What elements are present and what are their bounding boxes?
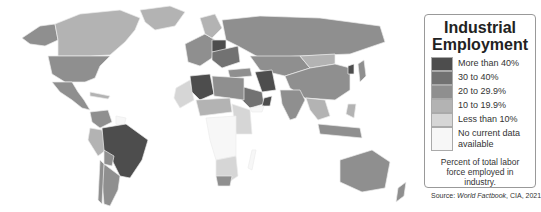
region-greenland — [140, 6, 185, 30]
region-europe-west — [185, 34, 215, 66]
region-alaska — [22, 24, 58, 46]
region-korea — [348, 64, 354, 74]
legend-swatch — [431, 71, 453, 85]
region-philippines — [346, 104, 356, 118]
legend-item: 20 to 29.9% — [431, 85, 529, 99]
legend-label: 30 to 40% — [458, 71, 499, 83]
source-suffix: , CIA, 2021 — [506, 192, 541, 199]
region-mexico — [52, 82, 90, 110]
region-russia — [222, 16, 385, 58]
legend-label: 10 to 19.9% — [458, 99, 506, 111]
legend-label: More than 40% — [458, 57, 519, 69]
region-colombia — [90, 110, 112, 128]
region-sahel — [196, 98, 232, 116]
legend-swatch — [431, 57, 453, 71]
region-japan — [358, 60, 366, 82]
legend-item: No current data available — [431, 127, 529, 151]
legend-item: More than 40% — [431, 57, 529, 71]
source-prefix: Source: — [431, 192, 457, 199]
legend-title: Industrial Employment — [431, 19, 529, 53]
region-central-africa — [206, 116, 236, 160]
legend-item: Less than 10% — [431, 113, 529, 127]
world-map — [0, 0, 420, 212]
region-libya-egypt — [212, 76, 244, 100]
legend-swatch — [431, 99, 453, 113]
legend-title-line2: Employment — [431, 36, 529, 53]
legend-swatch — [431, 85, 453, 99]
region-australia — [340, 150, 390, 192]
legend-item: 30 to 40% — [431, 71, 529, 85]
map-legend: Industrial Employment More than 40% 30 t… — [424, 14, 536, 188]
legend-title-line1: Industrial — [431, 19, 529, 36]
legend-note: Percent of total labor force employed in… — [431, 157, 529, 187]
legend-item: 10 to 19.9% — [431, 99, 529, 113]
legend-label: 20 to 29.9% — [458, 85, 506, 97]
region-caribbean — [90, 92, 110, 99]
legend-swatch — [431, 127, 453, 151]
region-canada — [55, 10, 140, 56]
source-title: World Factbook — [457, 192, 506, 199]
region-india — [280, 90, 305, 120]
region-madagascar — [248, 150, 256, 170]
region-se-asia — [306, 98, 330, 120]
region-turkey — [228, 68, 252, 78]
legend-label: Less than 10% — [458, 113, 518, 125]
region-indonesia — [318, 124, 362, 138]
region-algeria — [190, 74, 214, 100]
legend-source: Source: World Factbook, CIA, 2021 — [431, 192, 529, 199]
region-oman — [262, 96, 272, 106]
region-new-zealand — [396, 182, 406, 202]
region-scandinavia — [200, 14, 222, 38]
region-south-africa — [216, 176, 232, 186]
legend-items: More than 40% 30 to 40% 20 to 29.9% 10 t… — [431, 57, 529, 151]
region-iran — [255, 70, 276, 92]
legend-label: No current data available — [458, 127, 529, 150]
region-usa — [48, 56, 110, 82]
legend-swatch — [431, 113, 453, 127]
